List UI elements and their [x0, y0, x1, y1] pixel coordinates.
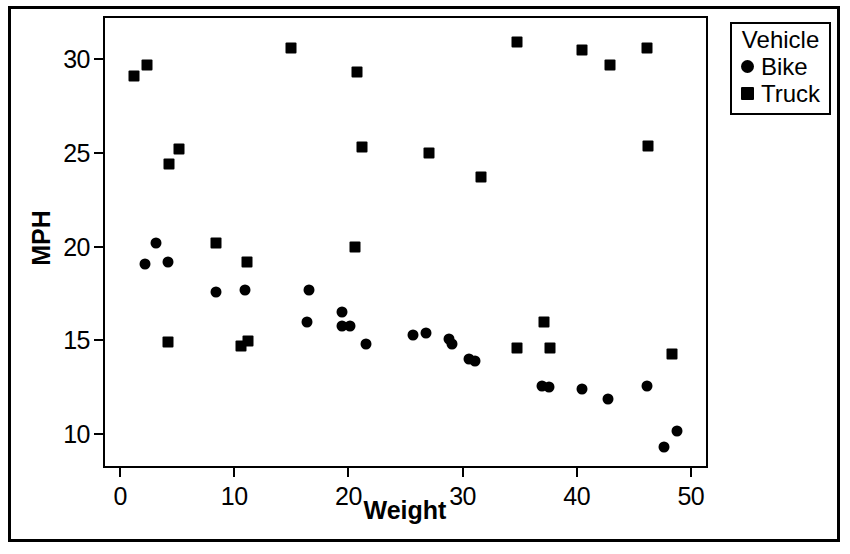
- data-point-bike: [162, 256, 173, 267]
- y-tick-mark: [94, 152, 103, 154]
- x-tick-label: 10: [221, 482, 248, 511]
- data-point-bike: [544, 382, 555, 393]
- figure-canvas: MPH Weight 1015202530 01020304050 Vehicl…: [0, 0, 850, 554]
- data-point-truck: [356, 142, 367, 153]
- data-point-bike: [642, 380, 653, 391]
- data-point-bike: [659, 442, 670, 453]
- x-tick-label: 50: [677, 482, 704, 511]
- data-point-truck: [349, 241, 360, 252]
- y-tick-label: 25: [63, 138, 90, 167]
- x-tick-label: 30: [449, 482, 476, 511]
- data-point-truck: [512, 343, 523, 354]
- legend-item-label: Truck: [761, 81, 820, 107]
- y-tick-label: 20: [63, 232, 90, 261]
- data-point-truck: [604, 59, 615, 70]
- data-point-truck: [539, 316, 550, 327]
- data-point-truck: [242, 335, 253, 346]
- data-point-bike: [420, 328, 431, 339]
- data-point-bike: [302, 316, 313, 327]
- x-tick-mark: [690, 468, 692, 477]
- data-point-bike: [240, 284, 251, 295]
- legend-item-truck[interactable]: Truck: [741, 81, 820, 107]
- x-tick-mark: [462, 468, 464, 477]
- data-point-bike: [345, 320, 356, 331]
- data-point-truck: [642, 43, 653, 54]
- data-point-truck: [286, 43, 297, 54]
- y-tick-mark: [94, 58, 103, 60]
- x-tick-label: 20: [335, 482, 362, 511]
- data-point-bike: [151, 238, 162, 249]
- legend-entries: BikeTruck: [741, 54, 820, 107]
- y-tick-mark: [94, 339, 103, 341]
- data-point-truck: [352, 67, 363, 78]
- legend-item-bike[interactable]: Bike: [741, 54, 820, 80]
- x-tick-mark: [347, 468, 349, 477]
- legend-box: Vehicle BikeTruck: [730, 22, 831, 115]
- data-point-bike: [139, 258, 150, 269]
- x-axis-label: Weight: [364, 496, 447, 525]
- data-point-truck: [424, 148, 435, 159]
- circle-marker-icon: [741, 60, 754, 73]
- data-point-truck: [643, 140, 654, 151]
- data-point-bike: [408, 329, 419, 340]
- data-point-bike: [577, 384, 588, 395]
- x-tick-mark: [233, 468, 235, 477]
- data-point-truck: [142, 59, 153, 70]
- data-point-truck: [475, 172, 486, 183]
- data-point-truck: [241, 256, 252, 267]
- x-tick-label: 0: [113, 482, 126, 511]
- square-marker-icon: [741, 87, 754, 100]
- data-point-truck: [163, 159, 174, 170]
- y-tick-label: 10: [63, 420, 90, 449]
- x-tick-mark: [119, 468, 121, 477]
- y-axis-label: MPH: [27, 210, 56, 266]
- data-point-truck: [545, 343, 556, 354]
- legend-item-label: Bike: [761, 54, 808, 80]
- data-point-truck: [210, 238, 221, 249]
- x-tick-label: 40: [563, 482, 590, 511]
- y-tick-mark: [94, 246, 103, 248]
- y-tick-mark: [94, 433, 103, 435]
- x-tick-mark: [576, 468, 578, 477]
- data-point-bike: [210, 286, 221, 297]
- data-point-bike: [304, 284, 315, 295]
- data-point-truck: [174, 144, 185, 155]
- scatter-plot-area: [103, 16, 708, 468]
- data-point-bike: [603, 393, 614, 404]
- data-point-bike: [671, 425, 682, 436]
- y-tick-label: 30: [63, 45, 90, 74]
- data-point-truck: [162, 337, 173, 348]
- data-point-bike: [361, 339, 372, 350]
- data-point-truck: [512, 37, 523, 48]
- legend-title: Vehicle: [741, 27, 820, 53]
- data-point-truck: [577, 44, 588, 55]
- data-point-bike: [337, 307, 348, 318]
- y-tick-label: 15: [63, 326, 90, 355]
- data-point-truck: [128, 71, 139, 82]
- data-point-bike: [469, 356, 480, 367]
- data-point-bike: [447, 339, 458, 350]
- data-point-truck: [667, 348, 678, 359]
